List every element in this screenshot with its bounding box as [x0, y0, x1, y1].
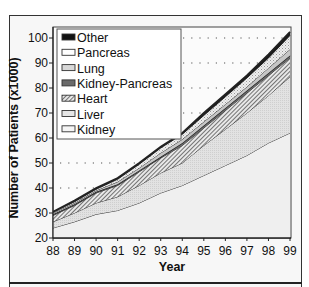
legend-swatch — [62, 49, 75, 55]
legend-label: Kidney-Pancreas — [77, 77, 172, 91]
x-tick-label: 93 — [154, 244, 168, 258]
x-tick-label: 94 — [176, 244, 190, 258]
legend-swatch — [62, 34, 75, 40]
legend-label: Lung — [77, 62, 105, 76]
legend-swatch — [62, 65, 75, 71]
legend-swatch — [62, 126, 75, 132]
y-tick-label: 100 — [28, 31, 48, 45]
legend-item-kidney-pancreas: Kidney-Pancreas — [62, 77, 172, 91]
x-tick-label: 90 — [89, 244, 103, 258]
legend-label: Heart — [77, 92, 108, 106]
stacked-area-chart: 2030405060708090100 88899091929394959697… — [0, 0, 309, 287]
x-tick-label: 99 — [283, 244, 297, 258]
legend-label: Pancreas — [77, 46, 130, 60]
legend-label: Other — [77, 31, 108, 45]
x-axis-ticks: 888990919293949596979899 — [46, 238, 297, 258]
x-tick-label: 98 — [262, 244, 276, 258]
x-tick-label: 95 — [197, 244, 211, 258]
x-tick-label: 88 — [46, 244, 60, 258]
y-axis-ticks: 2030405060708090100 — [28, 31, 53, 245]
x-tick-label: 91 — [111, 244, 125, 258]
x-tick-label: 92 — [133, 244, 147, 258]
legend-swatch — [62, 80, 75, 86]
legend: OtherPancreasLungKidney-PancreasHeartLiv… — [57, 29, 181, 139]
y-tick-label: 50 — [35, 156, 49, 170]
y-axis-title: Number of Patients (x1000) — [7, 57, 21, 218]
y-tick-label: 40 — [35, 181, 49, 195]
legend-label: Kidney — [77, 123, 116, 137]
y-tick-label: 70 — [35, 106, 49, 120]
y-tick-label: 60 — [35, 131, 49, 145]
x-axis-title: Year — [159, 260, 186, 274]
x-tick-label: 89 — [68, 244, 82, 258]
y-tick-label: 90 — [35, 56, 49, 70]
x-tick-label: 97 — [240, 244, 254, 258]
y-tick-label: 80 — [35, 81, 49, 95]
y-tick-label: 30 — [35, 206, 49, 220]
legend-label: Liver — [77, 108, 104, 122]
y-tick-label: 20 — [35, 231, 49, 245]
legend-swatch — [62, 95, 75, 101]
x-tick-label: 96 — [219, 244, 233, 258]
legend-swatch — [62, 111, 75, 117]
